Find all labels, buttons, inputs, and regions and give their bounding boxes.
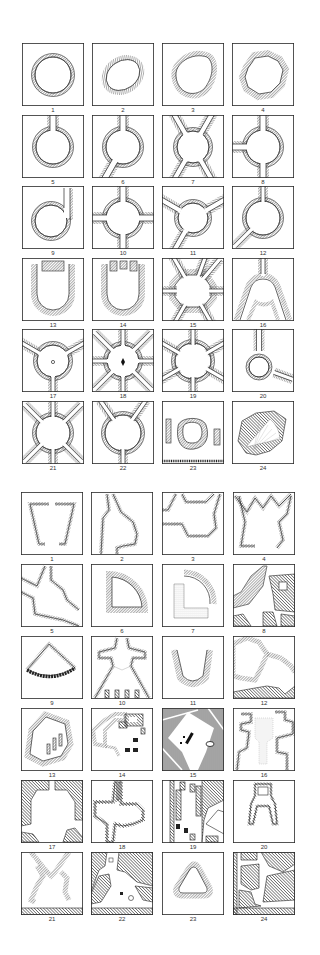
u-shape-plan-drawing — [22, 258, 84, 321]
plan-figure-circular-places-18 — [92, 329, 154, 392]
figure-number-label: 18 — [91, 844, 153, 850]
hatched-square-open-plan-drawing — [162, 708, 224, 771]
triangle-place-plan-drawing — [91, 852, 153, 915]
figure-number-label: 21 — [22, 465, 84, 471]
plan-figure-circular-places-14 — [92, 258, 154, 321]
plan-figure-irregular-places-8 — [233, 564, 295, 627]
trapezoid-plan-drawing — [21, 492, 83, 555]
plan-figure-circular-places-7 — [162, 115, 224, 178]
figure-number-label: 16 — [232, 322, 294, 328]
small-circle-3-plan-drawing — [232, 329, 294, 392]
figure-number-label: 21 — [21, 916, 83, 922]
plan-figure-irregular-places-19 — [162, 780, 224, 843]
egg-plan-drawing — [162, 43, 224, 106]
fan-theatre-plan-drawing — [232, 401, 294, 464]
figure-number-label: 20 — [232, 393, 294, 399]
plan-figure-circular-places-12 — [232, 186, 294, 249]
figure-number-label: 19 — [162, 844, 224, 850]
figure-number-label: 23 — [162, 465, 224, 471]
plan-figure-irregular-places-16 — [233, 708, 295, 771]
figure-number-label: 5 — [22, 179, 84, 185]
figure-number-label: 19 — [162, 393, 224, 399]
plan-figure-irregular-places-13 — [21, 708, 83, 771]
figure-number-label: 6 — [91, 628, 153, 634]
x-crossing-plan-drawing — [21, 852, 83, 915]
figure-number-label: 2 — [92, 107, 154, 113]
plan-figure-circular-places-17 — [22, 329, 84, 392]
w-funnel-plan-drawing — [233, 492, 295, 555]
plan-figure-irregular-places-20 — [233, 780, 295, 843]
irregular-ring-plan-drawing — [232, 43, 294, 106]
circle-2-radial-plan-drawing — [232, 186, 294, 249]
plan-figure-irregular-places-9 — [21, 636, 83, 699]
plan-figure-circular-places-5 — [22, 115, 84, 178]
plan-figure-circular-places-13 — [22, 258, 84, 321]
octagon-radial-plan-drawing — [162, 258, 224, 321]
circle-tangent-plan-drawing — [22, 186, 84, 249]
figure-number-label: 17 — [22, 393, 84, 399]
figure-number-label: 23 — [162, 916, 224, 922]
dense-block-plan-drawing — [233, 564, 295, 627]
circle-8-radial-plan-drawing — [162, 329, 224, 392]
plan-figure-irregular-places-23 — [162, 852, 224, 915]
figure-number-label: 5 — [21, 628, 83, 634]
polygon-block-plan-drawing — [233, 636, 295, 699]
figure-number-label: 20 — [233, 844, 295, 850]
plan-figure-circular-places-22 — [92, 401, 154, 464]
plan-figure-circular-places-20 — [232, 329, 294, 392]
plan-figure-irregular-places-7 — [162, 564, 224, 627]
strip-blocks-plan-drawing — [162, 780, 224, 843]
plan-figure-irregular-places-10 — [91, 636, 153, 699]
plan-figure-circular-places-11 — [162, 186, 224, 249]
circle-4-diagonal-plan-drawing — [162, 115, 224, 178]
plan-figure-circular-places-1 — [22, 43, 84, 106]
circle-8-radial-monument-plan-drawing — [92, 329, 154, 392]
plan-figure-irregular-places-24 — [233, 852, 295, 915]
figure-number-label: 11 — [162, 250, 224, 256]
figure-number-label: 12 — [233, 700, 295, 706]
plan-figure-circular-places-21 — [22, 401, 84, 464]
plan-figure-circular-places-2 — [92, 43, 154, 106]
figure-number-label: 17 — [21, 844, 83, 850]
circle-3-streets-plan-drawing — [232, 115, 294, 178]
plan-figure-irregular-places-14 — [91, 708, 153, 771]
figure-number-label: 4 — [232, 107, 294, 113]
plan-figure-circular-places-19 — [162, 329, 224, 392]
circle-2-streets-plan-drawing — [92, 115, 154, 178]
quarter-circle-plan-drawing — [91, 564, 153, 627]
plan-figure-irregular-places-2 — [91, 492, 153, 555]
block-cluster-plan-drawing — [91, 708, 153, 771]
plan-figure-irregular-places-6 — [91, 564, 153, 627]
figure-number-label: 10 — [92, 250, 154, 256]
figure-number-label: 15 — [162, 772, 224, 778]
figure-number-label: 1 — [21, 556, 83, 562]
plan-figure-irregular-places-1 — [21, 492, 83, 555]
figure-number-label: 24 — [233, 916, 295, 922]
figure-number-label: 14 — [91, 772, 153, 778]
figure-number-label: 12 — [232, 250, 294, 256]
bulge-plan-drawing — [91, 492, 153, 555]
figure-number-label: 9 — [21, 700, 83, 706]
circle-6-radial-plan-drawing — [22, 401, 84, 464]
plan-figure-irregular-places-22 — [91, 852, 153, 915]
cross-plan-plan-drawing — [91, 780, 153, 843]
horseshoe-plan-drawing — [162, 636, 224, 699]
figure-number-label: 2 — [91, 556, 153, 562]
circle-plan-drawing — [22, 43, 84, 106]
plan-figure-circular-places-24 — [232, 401, 294, 464]
dense-blocks-2-plan-drawing — [233, 852, 295, 915]
figure-number-label: 7 — [162, 179, 224, 185]
plan-figure-irregular-places-15 — [162, 708, 224, 771]
figure-number-label: 24 — [232, 465, 294, 471]
figure-number-label: 3 — [162, 556, 224, 562]
cross-church-plan-drawing — [91, 636, 153, 699]
circle-3-top-plan-drawing — [92, 401, 154, 464]
plan-figure-circular-places-23 — [162, 401, 224, 464]
plan-figure-irregular-places-4 — [233, 492, 295, 555]
figure-number-label: 22 — [92, 465, 154, 471]
tower-gate-plan-drawing — [233, 780, 295, 843]
hexagonal-funnel-plan-drawing — [162, 492, 224, 555]
rounded-triangle-plan-drawing — [162, 852, 224, 915]
figure-number-label: 8 — [233, 628, 295, 634]
figure-number-label: 13 — [21, 772, 83, 778]
